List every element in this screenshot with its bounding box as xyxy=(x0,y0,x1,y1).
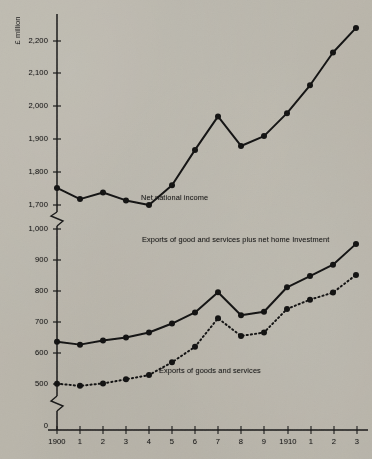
annotation-net-national-income: Net national income xyxy=(141,193,208,202)
data-point xyxy=(146,330,152,336)
x-tick-label-1913: 3 xyxy=(345,437,369,446)
data-point xyxy=(330,49,336,55)
data-point xyxy=(215,289,221,295)
x-tick-label-1908: 8 xyxy=(229,437,253,446)
data-point xyxy=(261,309,267,315)
data-point xyxy=(307,273,313,279)
x-tick-label-1907: 7 xyxy=(206,437,230,446)
data-point xyxy=(169,321,175,327)
data-point xyxy=(146,372,152,378)
y-tick-label-500: 500 xyxy=(8,379,48,388)
data-point xyxy=(123,335,129,341)
y-tick-label-0: 0 xyxy=(8,421,48,430)
y-tick-label-900: 900 xyxy=(8,255,48,264)
data-point xyxy=(77,342,83,348)
y-tick-label-1700: 1,700 xyxy=(8,200,48,209)
x-tick-label-1905: 5 xyxy=(160,437,184,446)
x-tick-label-1911: 1 xyxy=(299,437,323,446)
y-tick-label-1000: 1,000 xyxy=(8,224,48,233)
series-markers-exports-plus-investment xyxy=(54,241,359,348)
data-point xyxy=(54,339,60,345)
y-tick-label-1800: 1,800 xyxy=(8,167,48,176)
y-tick-label-600: 600 xyxy=(8,348,48,357)
x-tick-label-1906: 6 xyxy=(183,437,207,446)
data-point xyxy=(192,147,198,153)
data-point xyxy=(123,197,129,203)
data-point xyxy=(100,380,106,386)
y-axis-break-lower xyxy=(51,396,63,411)
annotation-exports-plus-investment: Exports of good and services plus net ho… xyxy=(142,235,329,244)
y-tick-label-1900: 1,900 xyxy=(8,134,48,143)
y-tick-label-2100: 2,100 xyxy=(8,68,48,77)
y-tick-label-800: 800 xyxy=(8,286,48,295)
x-tick-label-1904: 4 xyxy=(137,437,161,446)
data-point xyxy=(238,333,244,339)
data-point xyxy=(261,330,267,336)
chart-canvas xyxy=(0,0,372,459)
data-point xyxy=(284,110,290,116)
data-point xyxy=(215,315,221,321)
data-point xyxy=(330,290,336,296)
data-point xyxy=(146,202,152,208)
data-point xyxy=(169,359,175,365)
data-point xyxy=(238,312,244,318)
data-point xyxy=(54,381,60,387)
x-tick-label-1903: 3 xyxy=(114,437,138,446)
data-point xyxy=(284,306,290,312)
data-point xyxy=(307,82,313,88)
data-point xyxy=(307,297,313,303)
data-point xyxy=(330,262,336,268)
data-point xyxy=(100,338,106,344)
data-point xyxy=(261,133,267,139)
data-point xyxy=(353,272,359,278)
data-point xyxy=(169,182,175,188)
data-point xyxy=(192,309,198,315)
annotation-exports-goods-services: Exports of goods and services xyxy=(159,366,261,375)
series-markers-net-national-income xyxy=(54,25,359,208)
data-point xyxy=(54,185,60,191)
y-tick-label-2000: 2,000 xyxy=(8,101,48,110)
x-tick-label-1912: 2 xyxy=(322,437,346,446)
data-point xyxy=(77,383,83,389)
series-line-exports-plus-investment xyxy=(57,244,356,345)
x-tick-label-1901: 1 xyxy=(68,437,92,446)
y-axis-unit-label: £ million xyxy=(13,5,22,57)
series-net-national-income xyxy=(54,25,359,208)
data-point xyxy=(353,241,359,247)
x-tick-label-1902: 2 xyxy=(91,437,115,446)
series-exports-plus-investment xyxy=(54,241,359,348)
data-point xyxy=(284,284,290,290)
data-point xyxy=(100,190,106,196)
y-axis-break-upper xyxy=(51,212,63,226)
y-tick-label-2200: 2,200 xyxy=(8,36,48,45)
y-tick-label-700: 700 xyxy=(8,317,48,326)
data-point xyxy=(215,113,221,119)
data-point xyxy=(123,376,129,382)
series-line-net-national-income xyxy=(57,28,356,205)
data-point xyxy=(353,25,359,31)
data-point xyxy=(192,344,198,350)
data-point xyxy=(238,143,244,149)
data-point xyxy=(77,196,83,202)
